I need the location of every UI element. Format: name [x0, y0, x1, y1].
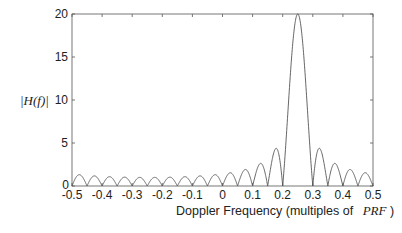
- y-axis-label-text: |H(f)|: [20, 93, 49, 108]
- y-tick-label: 5: [61, 136, 68, 150]
- x-tick-label: -0.3: [122, 188, 143, 202]
- y-tick-label: 10: [55, 93, 69, 107]
- x-axis-label-suffix: ): [390, 204, 394, 218]
- x-axis-label: Doppler Frequency (multiples of PRF ): [176, 203, 394, 218]
- y-axis-ticks: 05101520: [55, 7, 373, 192]
- chart: -0.5-0.4-0.3-0.2-0.100.10.20.30.40.5 051…: [0, 0, 402, 233]
- plot-area: -0.5-0.4-0.3-0.2-0.100.10.20.30.40.5 051…: [55, 7, 382, 202]
- x-axis-label-prf: PRF: [362, 203, 388, 218]
- x-tick-label: 0.3: [304, 188, 321, 202]
- y-tick-label: 0: [62, 178, 69, 192]
- x-tick-label: 0.2: [274, 188, 291, 202]
- x-tick-label: 0.5: [365, 188, 382, 202]
- axes-frame: [72, 14, 373, 186]
- x-tick-label: 0.1: [244, 188, 261, 202]
- y-tick-label: 15: [55, 50, 69, 64]
- magnitude-response-line: [72, 14, 373, 186]
- x-tick-label: -0.2: [152, 188, 173, 202]
- x-axis-label-prefix: Doppler Frequency (multiples of: [176, 204, 354, 218]
- y-axis-label: |H(f)|: [20, 93, 49, 108]
- x-tick-label: 0.4: [335, 188, 352, 202]
- x-tick-label: 0: [219, 188, 226, 202]
- x-tick-label: -0.1: [182, 188, 203, 202]
- x-tick-label: -0.4: [92, 188, 113, 202]
- x-axis-ticks: -0.5-0.4-0.3-0.2-0.100.10.20.30.40.5: [62, 14, 382, 202]
- y-tick-label: 20: [55, 7, 69, 21]
